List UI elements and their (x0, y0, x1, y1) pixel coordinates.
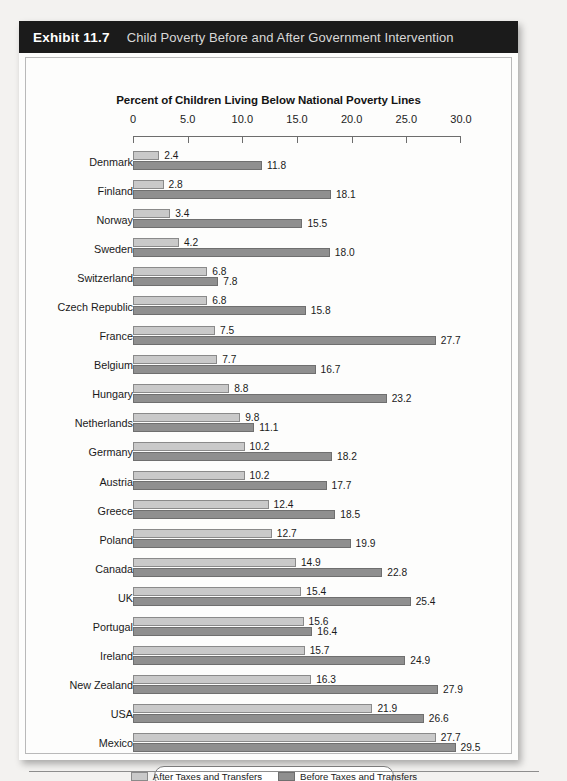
bar-before-taxes[interactable] (133, 481, 327, 490)
bar-after-taxes[interactable] (133, 151, 159, 160)
bar-before-taxes[interactable] (133, 452, 332, 461)
bar-after-taxes[interactable] (133, 617, 304, 626)
plot-area: Denmark2.411.8Finland2.818.1Norway3.415.… (19, 148, 518, 759)
bar-pair: 21.926.6 (133, 704, 461, 727)
exhibit-number: Exhibit 11.7 (33, 30, 110, 45)
bar-row: Portugal15.616.4 (19, 614, 518, 643)
bar-after-taxes[interactable] (133, 267, 207, 276)
bar-pair: 15.425.4 (133, 587, 461, 610)
bar-after-taxes[interactable] (133, 471, 245, 480)
bar-after-taxes[interactable] (133, 326, 215, 335)
bar-before-taxes[interactable] (133, 597, 411, 606)
bar-before-taxes[interactable] (133, 306, 306, 315)
category-label: Sweden (94, 243, 133, 255)
bar-row: Norway3.415.5 (19, 206, 518, 235)
bar-pair: 6.87.8 (133, 267, 461, 290)
bar-value-before: 22.8 (387, 568, 407, 578)
bar-before-taxes[interactable] (133, 248, 330, 257)
legend-label: Before Taxes and Transfers (300, 771, 417, 781)
bar-value-after: 4.2 (184, 238, 198, 248)
bar-row: Sweden4.218.0 (19, 235, 518, 264)
x-axis-tick (133, 136, 134, 143)
bar-after-taxes[interactable] (133, 296, 207, 305)
bar-pair: 3.415.5 (133, 209, 461, 232)
bar-after-taxes[interactable] (133, 587, 301, 596)
bar-value-after: 15.6 (309, 617, 329, 627)
x-axis-tick-label: 15.0 (286, 113, 307, 125)
chart-legend: After Taxes and TransfersBefore Taxes an… (154, 766, 394, 781)
bar-before-taxes[interactable] (133, 627, 312, 636)
legend-item[interactable]: After Taxes and Transfers (131, 771, 262, 781)
bar-before-taxes[interactable] (133, 277, 218, 286)
bar-after-taxes[interactable] (133, 238, 179, 247)
bar-value-after: 9.8 (245, 413, 259, 423)
bar-before-taxes[interactable] (133, 394, 387, 403)
bar-before-taxes[interactable] (133, 539, 351, 548)
bar-row: New Zealand16.327.9 (19, 672, 518, 701)
bar-pair: 7.716.7 (133, 355, 461, 378)
bar-before-taxes[interactable] (133, 685, 438, 694)
category-label: USA (111, 708, 133, 720)
bar-after-taxes[interactable] (133, 704, 372, 713)
bar-value-before: 7.8 (223, 277, 237, 287)
bar-pair: 16.327.9 (133, 675, 461, 698)
bar-before-taxes[interactable] (133, 161, 262, 170)
bar-row: USA21.926.6 (19, 701, 518, 730)
bar-value-before: 18.2 (337, 452, 357, 462)
bar-before-taxes[interactable] (133, 656, 405, 665)
bar-value-before: 17.7 (332, 481, 352, 491)
x-axis-tick-label: 10.0 (232, 113, 253, 125)
bar-before-taxes[interactable] (133, 190, 331, 199)
bar-row: Belgium7.716.7 (19, 352, 518, 381)
bar-before-taxes[interactable] (133, 336, 436, 345)
category-label: Ireland (100, 650, 133, 662)
bar-row: UK15.425.4 (19, 584, 518, 613)
bar-row: Canada14.922.8 (19, 555, 518, 584)
category-label: Hungary (92, 388, 133, 400)
x-axis-line (133, 136, 461, 143)
bar-value-after: 7.7 (222, 355, 236, 365)
bar-before-taxes[interactable] (133, 743, 456, 752)
page-canvas: Exhibit 11.7 Child Poverty Before and Af… (0, 0, 567, 781)
bar-after-taxes[interactable] (133, 558, 296, 567)
bar-after-taxes[interactable] (133, 355, 217, 364)
bar-value-before: 16.4 (317, 627, 337, 637)
bar-row: Mexico27.729.5 (19, 730, 518, 759)
bar-row: Switzerland6.87.8 (19, 264, 518, 293)
bar-row: Hungary8.823.2 (19, 381, 518, 410)
bar-before-taxes[interactable] (133, 568, 382, 577)
category-label: Portugal (93, 621, 133, 633)
bar-value-after: 10.2 (250, 471, 270, 481)
bar-value-after: 2.4 (164, 151, 178, 161)
bar-after-taxes[interactable] (133, 442, 245, 451)
bar-pair: 14.922.8 (133, 558, 461, 581)
bar-after-taxes[interactable] (133, 529, 272, 538)
bar-after-taxes[interactable] (133, 180, 164, 189)
bar-before-taxes[interactable] (133, 365, 316, 374)
chart-body: Percent of Children Living Below Nationa… (19, 53, 518, 760)
bar-value-after: 2.8 (169, 180, 183, 190)
category-label: Greece (98, 505, 133, 517)
category-label: Switzerland (77, 272, 133, 284)
bar-after-taxes[interactable] (133, 646, 305, 655)
bar-before-taxes[interactable] (133, 219, 302, 228)
bar-after-taxes[interactable] (133, 209, 170, 218)
bar-before-taxes[interactable] (133, 510, 335, 519)
bar-after-taxes[interactable] (133, 675, 311, 684)
x-axis-tick (406, 136, 407, 143)
x-axis-tick (460, 136, 461, 143)
bar-before-taxes[interactable] (133, 423, 254, 432)
bar-value-after: 16.3 (316, 675, 336, 685)
bar-after-taxes[interactable] (133, 733, 436, 742)
bar-value-after: 14.9 (301, 558, 321, 568)
bar-before-taxes[interactable] (133, 714, 424, 723)
bar-value-after: 15.7 (310, 646, 330, 656)
category-label: Belgium (94, 359, 133, 371)
bar-pair: 15.616.4 (133, 617, 461, 640)
bar-after-taxes[interactable] (133, 413, 240, 422)
bar-after-taxes[interactable] (133, 500, 269, 509)
bar-value-before: 11.8 (267, 161, 286, 171)
category-label: Poland (99, 534, 133, 546)
bar-after-taxes[interactable] (133, 384, 229, 393)
legend-item[interactable]: Before Taxes and Transfers (278, 771, 417, 781)
